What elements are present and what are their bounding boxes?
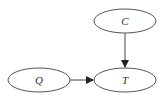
node-c: C — [94, 9, 156, 33]
node-q: Q — [8, 68, 70, 92]
node-t-label: T — [122, 74, 129, 86]
node-c-label: C — [121, 15, 129, 27]
node-q-label: Q — [35, 74, 43, 86]
diagram-canvas: C Q T — [0, 0, 166, 103]
node-t: T — [94, 68, 156, 92]
